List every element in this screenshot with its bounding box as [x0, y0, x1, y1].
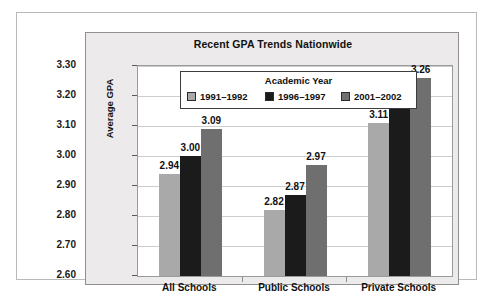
- legend-item: 2001–2002: [341, 91, 402, 102]
- bar-value-label: 3.11: [359, 110, 398, 120]
- chart-panel: Recent GPA Trends Nationwide Average GPA…: [85, 32, 459, 285]
- legend-label: 1996–1997: [278, 91, 326, 102]
- legend-label: 1991–1992: [200, 91, 248, 102]
- y-tick-label: 2.60: [36, 270, 76, 280]
- x-axis-category-label: Private Schools: [346, 283, 451, 293]
- y-tick-label: 3.10: [36, 120, 76, 130]
- legend-item: 1991–1992: [187, 91, 248, 102]
- bar: [285, 195, 306, 276]
- y-axis-title: Average GPA: [104, 64, 115, 154]
- x-axis-category-label: Public Schools: [242, 283, 347, 293]
- y-tick-label: 2.80: [36, 210, 76, 220]
- plot-area: 2.943.003.092.822.872.973.113.193.26 Aca…: [137, 65, 453, 277]
- x-axis-category-label: All Schools: [137, 283, 242, 293]
- bar: [159, 174, 180, 276]
- bar: [180, 156, 201, 276]
- chart-title: Recent GPA Trends Nationwide: [86, 38, 460, 50]
- y-tick-label: 3.20: [36, 90, 76, 100]
- bar-value-label: 2.94: [150, 161, 189, 171]
- bar: [368, 123, 389, 276]
- bar-value-label: 2.87: [276, 182, 315, 192]
- legend-item: 1996–1997: [265, 91, 326, 102]
- legend-swatch-icon: [187, 92, 196, 101]
- page-frame: Recent GPA Trends Nationwide Average GPA…: [16, 12, 477, 280]
- legend-label: 2001–2002: [354, 91, 402, 102]
- bar-value-label: 3.09: [192, 116, 231, 126]
- y-tick-label: 2.70: [36, 240, 76, 250]
- bar: [389, 99, 410, 276]
- y-tick-label: 2.90: [36, 180, 76, 190]
- y-tick-label: 3.30: [36, 60, 76, 70]
- bar-value-label: 3.00: [171, 143, 210, 153]
- bar: [264, 210, 285, 276]
- chart-legend: Academic Year 1991–19921996–19972001–200…: [180, 71, 417, 109]
- legend-title: Academic Year: [181, 75, 416, 86]
- legend-swatch-icon: [265, 92, 274, 101]
- y-tick-label: 3.00: [36, 150, 76, 160]
- bar-value-label: 2.97: [297, 152, 336, 162]
- bar-value-label: 2.82: [255, 197, 294, 207]
- legend-swatch-icon: [341, 92, 350, 101]
